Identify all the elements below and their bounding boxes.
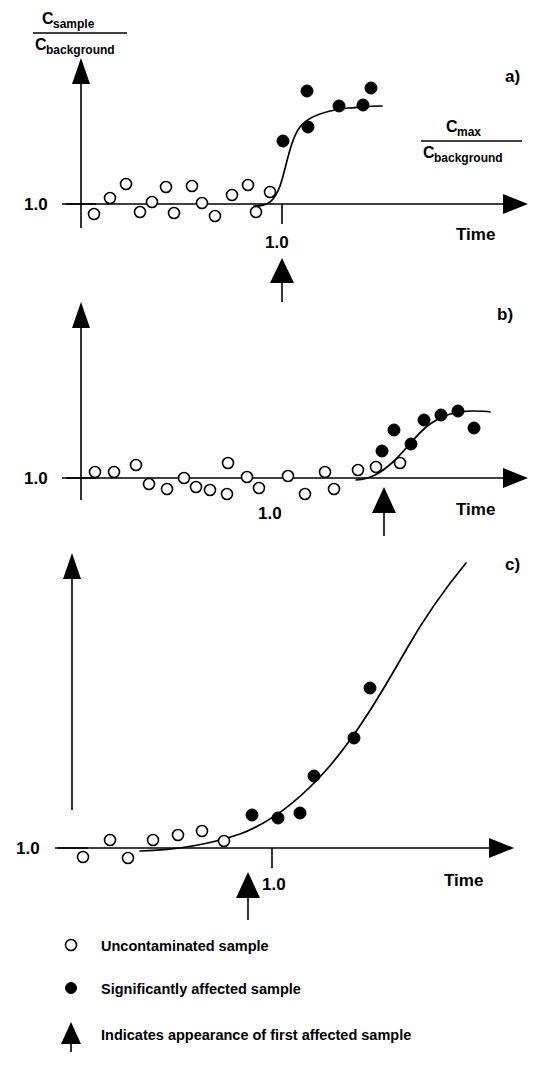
data-point-open (90, 467, 101, 478)
panel-a: a) 1.0 1.0 Time (24, 58, 528, 302)
data-point-open (173, 830, 184, 841)
data-point-filled (277, 135, 289, 147)
data-point-open (105, 193, 116, 204)
data-point-open (135, 207, 146, 218)
data-point-open (187, 181, 198, 192)
data-point-filled (388, 424, 400, 436)
data-point-filled (452, 405, 464, 417)
data-point-open (243, 180, 254, 191)
data-point-open (131, 460, 142, 471)
data-point-open (197, 826, 208, 837)
data-point-open (210, 211, 221, 222)
panel-b-y-axis-arrowhead (72, 302, 90, 328)
y-axis-denominator-subscript: background (46, 43, 115, 57)
data-point-filled (418, 414, 430, 426)
panel-b-affected-points (376, 405, 480, 457)
data-point-open (251, 207, 262, 218)
data-point-open (89, 209, 100, 220)
data-point-filled (405, 438, 417, 450)
data-point-open (395, 458, 406, 469)
data-point-open (219, 836, 230, 847)
data-point-open (205, 485, 216, 496)
data-point-open (78, 852, 89, 863)
panel-b-x-tick-label: 1.0 (258, 504, 282, 523)
data-point-open (109, 467, 120, 478)
y-axis-numerator-subscript: sample (53, 17, 95, 31)
legend: Uncontaminated sample Significantly affe… (61, 938, 411, 1052)
panel-c-x-tick-label: 1.0 (262, 875, 286, 894)
data-point-open (371, 462, 382, 473)
open-circle-icon (66, 940, 77, 951)
panel-a-arrow-head (270, 258, 294, 283)
data-point-filled (357, 99, 369, 111)
legend-label-uncontaminated: Uncontaminated sample (101, 938, 269, 954)
data-point-filled (246, 809, 258, 821)
panel-c-affected-points (246, 682, 376, 824)
panel-a-x-axis-arrowhead (503, 194, 528, 214)
data-point-filled (333, 100, 345, 112)
data-point-filled (272, 812, 284, 824)
y-axis-fraction-label: C sample C background (33, 10, 127, 57)
data-point-open (223, 458, 234, 469)
data-point-open (197, 198, 208, 209)
data-point-filled (468, 422, 480, 434)
data-point-open (265, 187, 276, 198)
data-point-open (169, 208, 180, 219)
legend-item-first-affected: Indicates appearance of first affected s… (61, 1022, 411, 1052)
data-point-filled (364, 682, 376, 694)
panel-a-x-tick-label: 1.0 (265, 233, 289, 252)
legend-label-first-affected: Indicates appearance of first affected s… (101, 1027, 411, 1043)
figure-svg: C sample C background C max C background… (0, 0, 555, 1084)
data-point-open (320, 467, 331, 478)
data-point-open (161, 182, 172, 193)
data-point-filled (308, 770, 320, 782)
panel-a-first-affected-arrow (270, 258, 294, 302)
panel-c-x-axis-arrowhead (489, 838, 514, 858)
panel-b-y-tick-label: 1.0 (24, 469, 48, 488)
cmax-denominator-subscript: background (434, 151, 503, 165)
panel-c-y-tick-label: 1.0 (16, 839, 40, 858)
panel-b-first-affected-arrow (372, 487, 396, 536)
legend-item-affected: Significantly affected sample (66, 981, 301, 997)
data-point-open (148, 835, 159, 846)
legend-label-affected: Significantly affected sample (101, 981, 301, 997)
cmax-fraction-label: C max C background (421, 118, 522, 165)
panel-b-arrow-head (372, 487, 396, 513)
panel-b-x-axis-arrowhead (503, 468, 528, 488)
panel-a-y-axis-arrowhead (72, 58, 90, 84)
data-point-open (353, 465, 364, 476)
data-point-open (222, 489, 233, 500)
data-point-filled (376, 445, 388, 457)
data-point-filled (301, 85, 313, 97)
data-point-open (254, 483, 265, 494)
data-point-open (123, 853, 134, 864)
figure-root: C sample C background C max C background… (0, 0, 555, 1084)
cmax-numerator-subscript: max (457, 125, 481, 139)
panel-c-uncontaminated-points (78, 826, 230, 864)
panel-b-x-axis-label: Time (456, 500, 495, 519)
data-point-filled (348, 732, 360, 744)
data-point-open (242, 472, 253, 483)
data-point-open (105, 835, 116, 846)
data-point-filled (435, 409, 447, 421)
data-point-open (191, 482, 202, 493)
panel-c-x-axis-label: Time (444, 871, 483, 890)
panel-a-label: a) (505, 67, 520, 86)
data-point-open (329, 484, 340, 495)
up-arrow-head (61, 1022, 81, 1044)
panel-a-x-axis-label: Time (456, 225, 495, 244)
panel-b-label: b) (497, 305, 513, 324)
panel-c-arrow-head (236, 872, 260, 898)
panel-c-label: c) (505, 555, 520, 574)
panel-a-uncontaminated-points (89, 179, 276, 222)
data-point-open (147, 197, 158, 208)
data-point-open (300, 489, 311, 500)
filled-circle-icon (66, 983, 77, 994)
panel-c-y-axis-arrowhead (63, 553, 81, 579)
up-arrow-icon (61, 1022, 81, 1052)
panel-a-y-tick-label: 1.0 (24, 195, 48, 214)
data-point-open (227, 190, 238, 201)
legend-item-uncontaminated: Uncontaminated sample (66, 938, 269, 954)
data-point-open (162, 484, 173, 495)
data-point-filled (294, 807, 306, 819)
